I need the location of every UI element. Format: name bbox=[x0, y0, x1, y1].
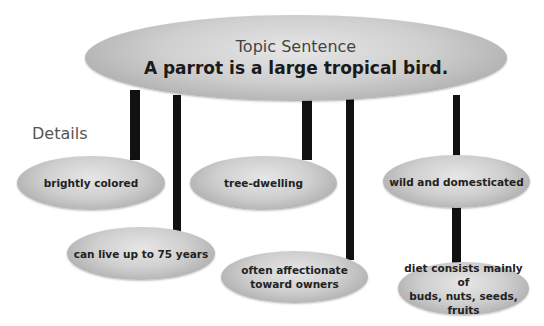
detail-text-line1: diet consists mainly of bbox=[398, 261, 529, 289]
connector-wild-domesticated bbox=[453, 95, 460, 160]
detail-oval-diet: diet consists mainly of buds, nuts, seed… bbox=[398, 262, 529, 315]
details-label: Details bbox=[32, 124, 87, 143]
detail-text-line2: toward owners bbox=[250, 277, 338, 291]
connector-diet bbox=[452, 204, 461, 266]
detail-oval-brightly-colored: brightly colored bbox=[17, 156, 165, 210]
connector-live-75-years bbox=[173, 95, 181, 232]
detail-text-line1: often affectionate bbox=[241, 263, 348, 277]
detail-text: brightly colored bbox=[44, 176, 138, 190]
connector-brightly-colored bbox=[130, 90, 140, 160]
connector-tree-dwelling bbox=[302, 95, 312, 160]
detail-text: can live up to 75 years bbox=[74, 247, 209, 261]
topic-sentence: A parrot is a large tropical bird. bbox=[144, 57, 448, 79]
detail-oval-tree-dwelling: tree-dwelling bbox=[190, 156, 337, 210]
detail-text-line2: buds, nuts, seeds, fruits bbox=[398, 289, 529, 317]
detail-oval-affectionate: often affectionate toward owners bbox=[221, 251, 368, 303]
connector-affectionate bbox=[346, 95, 354, 260]
topic-sentence-oval: Topic Sentence A parrot is a large tropi… bbox=[85, 15, 507, 101]
detail-text: tree-dwelling bbox=[224, 176, 303, 190]
detail-oval-wild-domesticated: wild and domesticated bbox=[383, 155, 530, 208]
topic-heading: Topic Sentence bbox=[236, 37, 356, 57]
detail-text: wild and domesticated bbox=[389, 175, 523, 189]
detail-oval-live-75-years: can live up to 75 years bbox=[67, 227, 215, 280]
